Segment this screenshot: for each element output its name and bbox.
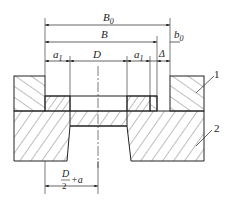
dim-B0-label: B0 xyxy=(103,11,114,26)
dim-D-label: D xyxy=(92,48,101,60)
part-2-label: 2 xyxy=(214,122,220,134)
svg-text:2: 2 xyxy=(62,181,67,191)
svg-text:+a: +a xyxy=(71,174,83,185)
dim-B-label: B xyxy=(101,28,108,40)
dim-b0-label: b0 xyxy=(174,28,184,43)
technical-drawing: B0 B b0 a1 D a1 Δ D 2 +a 1 2 xyxy=(0,0,236,202)
part-1-label: 1 xyxy=(214,68,220,80)
dim-half-bore-label: D 2 +a xyxy=(61,168,83,191)
svg-text:D: D xyxy=(61,168,70,179)
part-1-plates xyxy=(14,76,204,111)
dim-delta-label: Δ xyxy=(158,48,165,59)
